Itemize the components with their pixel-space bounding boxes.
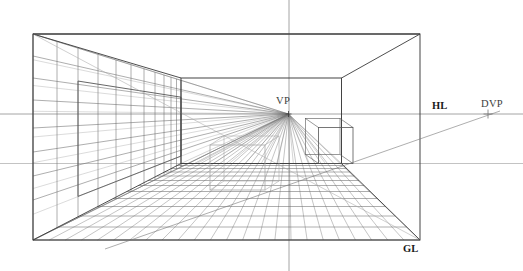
backwall-ray-10 [289, 114, 342, 164]
floor-ray-2 [65, 114, 288, 240]
left-wall-ray-5 [33, 114, 289, 163]
left-wall-ray-1 [33, 60, 289, 114]
floor-edge-right [342, 164, 421, 241]
left-wall-receding-line-7 [33, 114, 289, 200]
left-wall-panel-outline [78, 81, 181, 196]
floor-ray-22 [289, 114, 388, 240]
left-wall-ray-4 [33, 114, 289, 137]
left-wall-ray-6 [33, 114, 289, 189]
ceiling-edge-right [342, 34, 421, 78]
picture-frame-layer [33, 34, 420, 240]
floor-ray-21 [289, 114, 372, 240]
left-box-front-face [210, 145, 265, 190]
left-wall-receding-line-1 [33, 56, 289, 114]
ceiling-edge-left [33, 34, 181, 78]
left-wall-ray-7 [33, 114, 289, 214]
floor-ray-17 [289, 114, 308, 240]
backwall-ray-9 [289, 114, 326, 164]
horizon-line-label: HL [432, 100, 448, 111]
left-wall-grid-layer [33, 34, 289, 240]
left-wall-receding-line-4 [33, 114, 289, 128]
floor-ray-5 [114, 114, 289, 240]
floor-ray-7 [146, 114, 289, 240]
labels-layer: VPHLDVPGL [276, 95, 503, 254]
floor-ray-20 [289, 114, 356, 240]
perspective-drawing-canvas: VPHLDVPGL [0, 0, 523, 271]
left-box-edge-tl [210, 136, 224, 145]
right-box-edge-tl [306, 119, 319, 128]
vanishing-point-label: VP [276, 95, 290, 106]
floor-grid-layer [33, 166, 420, 241]
right-box-back-face [306, 119, 341, 155]
left-wall-ray-2 [33, 86, 289, 115]
floor-ray-10 [194, 114, 288, 240]
corner-diagonal-guide [33, 34, 420, 240]
perspective-diagram: VPHLDVPGL [0, 0, 523, 271]
distance-vanishing-point-label: DVP [481, 98, 503, 109]
floor-ray-1 [49, 114, 288, 240]
ground-line-label: GL [403, 243, 419, 254]
left-wall-receding-line-2 [33, 78, 289, 114]
floor-ray-19 [289, 114, 340, 240]
backwall-ray-2 [213, 114, 288, 164]
backwall-ray-8 [289, 114, 310, 164]
